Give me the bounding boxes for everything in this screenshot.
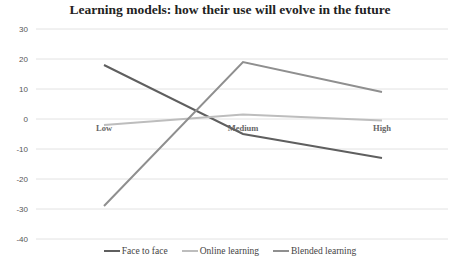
legend: Face to face Online learning Blended lea… bbox=[0, 246, 460, 256]
y-tick-label: -20 bbox=[16, 175, 28, 184]
legend-item-online-learning: Online learning bbox=[182, 246, 259, 256]
x-category-label: Medium bbox=[228, 123, 259, 133]
legend-label: Online learning bbox=[200, 246, 259, 256]
y-tick-label: 10 bbox=[19, 85, 28, 94]
y-tick-label: -10 bbox=[16, 145, 28, 154]
y-tick-label: 0 bbox=[24, 115, 29, 124]
legend-swatch-online-learning bbox=[182, 250, 198, 252]
legend-item-face-to-face: Face to face bbox=[104, 246, 168, 256]
legend-swatch-blended-learning bbox=[273, 250, 289, 252]
y-tick-label: -40 bbox=[16, 235, 28, 244]
legend-label: Face to face bbox=[122, 246, 168, 256]
y-tick-label: -30 bbox=[16, 205, 28, 214]
x-category-label: Low bbox=[96, 123, 113, 133]
legend-label: Blended learning bbox=[291, 246, 356, 256]
y-tick-label: 30 bbox=[19, 25, 28, 34]
series-line-face-to-face bbox=[104, 65, 382, 158]
legend-item-blended-learning: Blended learning bbox=[273, 246, 356, 256]
legend-swatch-face-to-face bbox=[104, 250, 120, 252]
line-chart-plot: 3020100-10-20-30-40LowMediumHigh bbox=[0, 0, 460, 277]
y-tick-label: 20 bbox=[19, 55, 28, 64]
x-category-label: High bbox=[373, 123, 391, 133]
